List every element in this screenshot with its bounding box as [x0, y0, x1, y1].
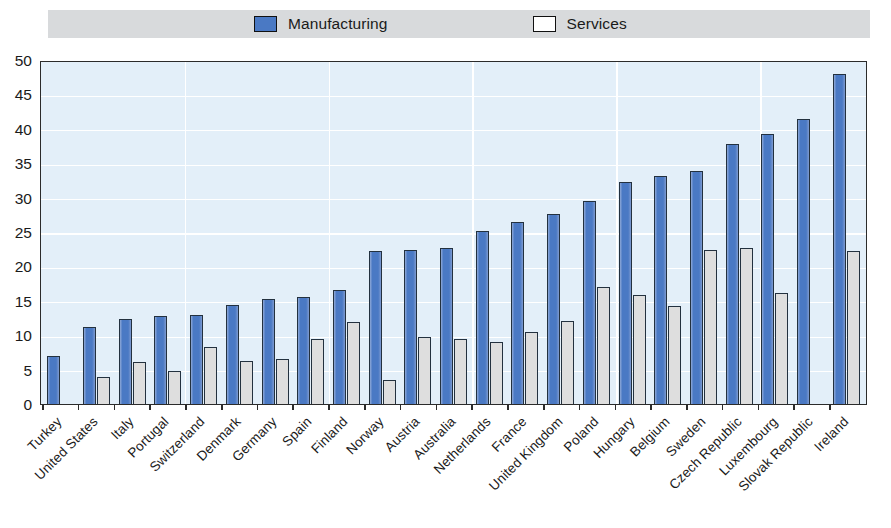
bar-group [828, 62, 864, 404]
bar-group [43, 62, 79, 404]
x-label-cell: Ireland [829, 410, 865, 528]
bar-group [150, 62, 186, 404]
bar-services [97, 377, 110, 404]
bar-services [133, 362, 146, 404]
bar-group [79, 62, 115, 404]
y-axis: 05101520253035404550 [0, 61, 40, 405]
chart-plot-area [40, 61, 867, 405]
bar-services [418, 337, 431, 404]
bar-services [276, 359, 289, 404]
bar-manufacturing [619, 182, 632, 404]
bar-services [847, 251, 860, 404]
bar-manufacturing [440, 248, 453, 404]
x-label-cell: United Kingdom [543, 410, 579, 528]
bar-services [704, 250, 717, 404]
y-tick-label: 15 [15, 293, 32, 311]
x-label-cell: United States [78, 410, 114, 528]
bar-manufacturing [226, 305, 239, 404]
y-tick-label: 20 [15, 258, 32, 276]
filled-blue-square-icon [254, 16, 277, 32]
bar-manufacturing [797, 119, 810, 404]
bar-services [240, 361, 253, 404]
bar-group [507, 62, 543, 404]
bar-services [347, 322, 360, 404]
bar-manufacturing [190, 315, 203, 404]
bar-series-container [41, 62, 866, 404]
y-tick-label: 50 [15, 52, 32, 70]
bar-services [561, 321, 574, 404]
y-tick-label: 40 [15, 121, 32, 139]
x-label-cell: Denmark [221, 410, 257, 528]
y-tick-label: 25 [15, 224, 32, 242]
bar-services [383, 380, 396, 404]
bar-group [222, 62, 258, 404]
y-tick-label: 10 [15, 327, 32, 345]
bar-group [721, 62, 757, 404]
bar-group [579, 62, 615, 404]
x-label-cell: Austria [400, 410, 436, 528]
bar-services [775, 293, 788, 404]
bar-manufacturing [83, 327, 96, 404]
x-label-cell: Switzerland [185, 410, 221, 528]
x-label-cell: Hungary [615, 410, 651, 528]
bar-group [186, 62, 222, 404]
legend-entry-manufacturing: Manufacturing [254, 15, 388, 33]
bar-manufacturing [404, 250, 417, 404]
bar-group [400, 62, 436, 404]
bar-group [614, 62, 650, 404]
x-label-cell: Slovak Republic [793, 410, 829, 528]
bar-manufacturing [511, 222, 524, 404]
x-label-cell: Norway [364, 410, 400, 528]
bar-services [454, 339, 467, 404]
x-label-cell: Germany [257, 410, 293, 528]
y-tick-label: 45 [15, 86, 32, 104]
legend-label-services: Services [567, 15, 627, 33]
empty-white-square-icon [533, 16, 556, 32]
bar-manufacturing [369, 251, 382, 404]
bar-services [311, 339, 324, 404]
bar-manufacturing [583, 201, 596, 404]
bar-services [204, 347, 217, 404]
x-label-cell: Spain [292, 410, 328, 528]
bar-group [757, 62, 793, 404]
bar-services [525, 332, 538, 404]
bar-group [686, 62, 722, 404]
x-label-cell: Finland [328, 410, 364, 528]
bar-group [471, 62, 507, 404]
bar-manufacturing [761, 134, 774, 404]
bar-services [597, 287, 610, 404]
bar-group [364, 62, 400, 404]
bar-manufacturing [333, 290, 346, 404]
bar-group [436, 62, 472, 404]
y-tick-label: 5 [23, 362, 32, 380]
y-tick-label: 0 [23, 396, 32, 414]
x-label-cell: Poland [579, 410, 615, 528]
bar-services [740, 248, 753, 404]
x-label-cell: Italy [114, 410, 150, 528]
bar-manufacturing [297, 297, 310, 404]
bar-group [114, 62, 150, 404]
bar-group [650, 62, 686, 404]
legend-entry-services: Services [533, 15, 627, 33]
bar-services [168, 371, 181, 404]
bar-manufacturing [476, 231, 489, 404]
bar-group [543, 62, 579, 404]
chart-legend: Manufacturing Services [48, 10, 870, 38]
bar-group [793, 62, 829, 404]
bar-manufacturing [654, 176, 667, 404]
x-axis-labels: TurkeyUnited StatesItalyPortugalSwitzerl… [40, 410, 867, 528]
bar-manufacturing [833, 74, 846, 404]
bar-services [633, 295, 646, 404]
bar-services [490, 342, 503, 404]
bar-group [329, 62, 365, 404]
bar-group [257, 62, 293, 404]
bar-manufacturing [547, 214, 560, 404]
y-tick-label: 35 [15, 155, 32, 173]
bar-manufacturing [119, 319, 132, 404]
y-tick-label: 30 [15, 190, 32, 208]
bar-manufacturing [47, 356, 60, 404]
bar-services [668, 306, 681, 404]
bar-manufacturing [690, 171, 703, 404]
bar-manufacturing [726, 144, 739, 404]
legend-label-manufacturing: Manufacturing [288, 15, 388, 33]
